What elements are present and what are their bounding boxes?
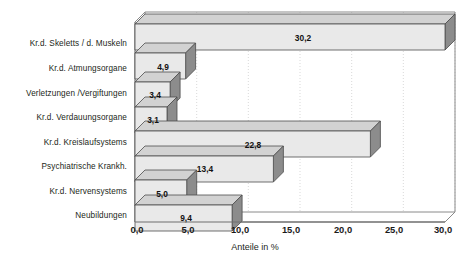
plot-area: 30,2 4,9 3,4 3,1 22,8 13,4 5,0 9,4 (0, 0, 464, 240)
x-tick-label: 30,0 (434, 224, 452, 235)
x-tick-label: 15,0 (282, 224, 300, 235)
plot-svg (0, 0, 464, 240)
value-label: 22,8 (245, 140, 261, 150)
value-label: 30,2 (295, 33, 311, 43)
x-axis-title-text: Anteile in % (231, 242, 279, 252)
x-tick-label: 10,0 (231, 224, 249, 235)
x-tick-label: 5,0 (181, 224, 194, 235)
x-tick-label: 20,0 (334, 224, 352, 235)
bar-chart: Kr.d. Skeletts / d. Muskeln Kr.d. Atmung… (0, 0, 464, 267)
x-tick-label: 0,0 (130, 224, 143, 235)
x-axis-title: Anteile in % (0, 242, 464, 252)
value-label: 13,4 (197, 164, 213, 174)
value-label: 3,4 (149, 90, 161, 100)
x-axis-ticks: 0,0 5,0 10,0 15,0 20,0 25,0 30,0 (0, 224, 464, 240)
value-label: 3,1 (147, 115, 159, 125)
value-label: 4,9 (157, 62, 169, 72)
x-tick-label: 25,0 (385, 224, 403, 235)
value-label: 9,4 (180, 213, 192, 223)
value-label: 5,0 (156, 189, 168, 199)
